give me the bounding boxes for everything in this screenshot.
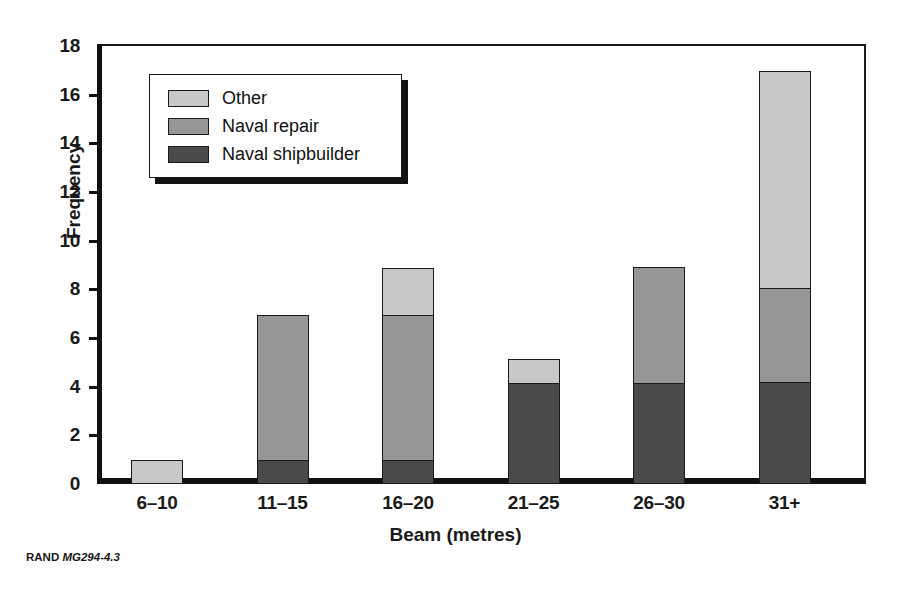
y-tick-mark (89, 94, 102, 97)
y-tick-mark (89, 386, 102, 389)
y-tick-label: 2 (20, 424, 80, 446)
bar-segment (633, 383, 685, 484)
legend-item: Naval shipbuilder (168, 140, 401, 168)
x-tick-label: 21–25 (474, 492, 594, 514)
legend-swatch (168, 90, 209, 107)
figure-caption: RAND MG294-4.3 (26, 551, 120, 563)
x-tick-label: 26–30 (599, 492, 719, 514)
bar-group (131, 460, 183, 484)
y-tick-mark (89, 142, 102, 145)
y-tick-label: 16 (20, 84, 80, 106)
y-tick-label: 8 (20, 278, 80, 300)
caption-figure-id: MG294-4.3 (62, 551, 120, 563)
x-tick-label: 31+ (725, 492, 845, 514)
bar-segment (382, 268, 434, 317)
chart-legend: OtherNaval repairNaval shipbuilder (149, 74, 402, 178)
bar-segment (257, 315, 309, 461)
bar-group (633, 267, 685, 484)
bar-group (257, 315, 309, 484)
bar-segment (131, 460, 183, 484)
bar-group (759, 71, 811, 484)
bar-segment (382, 315, 434, 461)
bar-segment (508, 383, 560, 484)
caption-publisher: RAND (26, 551, 59, 563)
legend-label: Naval repair (222, 116, 319, 137)
y-tick-label: 14 (20, 132, 80, 154)
bar-segment (257, 460, 309, 484)
legend-item: Other (168, 84, 401, 112)
x-axis-title: Beam (metres) (0, 524, 911, 546)
bar-group (382, 268, 434, 484)
bar-segment (759, 71, 811, 290)
bar-segment (382, 460, 434, 484)
y-tick-label: 0 (20, 473, 80, 495)
legend-swatch (168, 118, 209, 135)
x-tick-label: 16–20 (348, 492, 468, 514)
y-tick-mark (89, 337, 102, 340)
y-tick-mark (89, 288, 102, 291)
y-tick-label: 4 (20, 376, 80, 398)
bar-group (508, 359, 560, 484)
bar-segment (759, 288, 811, 383)
y-tick-label: 12 (20, 181, 80, 203)
bar-segment (759, 382, 811, 484)
y-tick-mark (89, 434, 102, 437)
bar-segment (633, 267, 685, 385)
x-tick-label: 6–10 (97, 492, 217, 514)
x-tick-label: 11–15 (223, 492, 343, 514)
y-tick-mark (89, 240, 102, 243)
legend-label: Other (222, 88, 267, 109)
y-tick-label: 6 (20, 327, 80, 349)
legend-item: Naval repair (168, 112, 401, 140)
bar-segment (508, 359, 560, 385)
legend-swatch (168, 146, 209, 163)
legend-label: Naval shipbuilder (222, 144, 360, 165)
y-tick-mark (89, 191, 102, 194)
y-tick-label: 10 (20, 230, 80, 252)
y-tick-label: 18 (20, 35, 80, 57)
chart-figure: Frequency 024681012141618 6–1011–1516–20… (0, 0, 911, 589)
